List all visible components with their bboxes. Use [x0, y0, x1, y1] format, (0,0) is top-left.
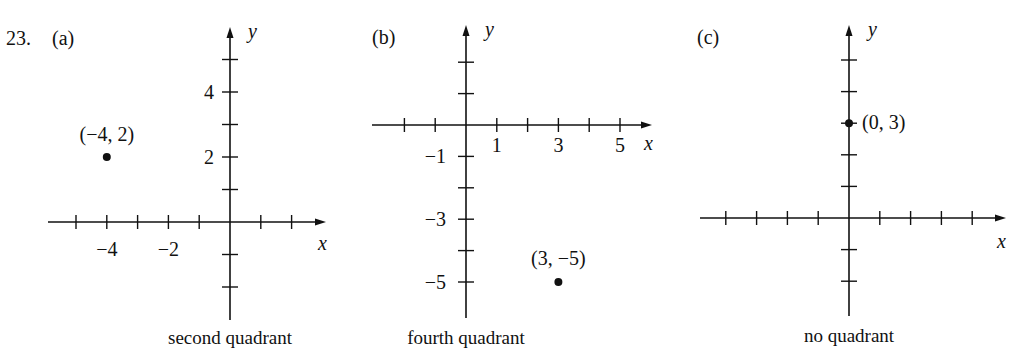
panel-label: (b) [372, 26, 395, 49]
data-point [554, 278, 562, 286]
panel-caption: no quadrant [804, 325, 895, 346]
x-tick-label: −4 [96, 238, 117, 260]
y-axis-arrow-icon [227, 27, 234, 38]
plot-panel-c: (c)xy(0, 3)no quadrant [697, 18, 1006, 346]
x-axis-label: x [643, 132, 653, 154]
panel-caption: second quadrant [168, 327, 293, 348]
y-axis-arrow-icon [463, 25, 470, 36]
x-tick-label: 1 [492, 134, 502, 156]
plot-panel-a: (a)−4−242xy(−4, 2)second quadrant [48, 20, 327, 348]
data-point [103, 153, 111, 161]
y-tick-label: 2 [204, 146, 214, 168]
y-axis-label: y [483, 18, 494, 41]
x-tick-label: 3 [553, 134, 563, 156]
point-label: (0, 3) [862, 111, 905, 134]
x-axis-arrow-icon [315, 219, 326, 226]
y-tick-label: −5 [425, 271, 446, 293]
plot-panel-b: (b)135−1−3−5xy(3, −5)fourth quadrant [372, 18, 653, 348]
y-axis-label: y [866, 18, 877, 41]
point-label: (−4, 2) [79, 123, 134, 146]
plot-panels: (a)−4−242xy(−4, 2)second quadrant(b)135−… [48, 18, 1006, 348]
x-tick-label: 5 [615, 134, 625, 156]
x-axis-label: x [996, 230, 1006, 252]
y-tick-label: −1 [425, 145, 446, 167]
x-tick-label: −2 [158, 238, 179, 260]
data-point [845, 119, 853, 127]
y-axis-label: y [246, 20, 257, 43]
y-tick-label: −3 [425, 208, 446, 230]
x-axis-arrow-icon [995, 215, 1006, 222]
problem-number: 23. [6, 27, 31, 49]
panel-label: (c) [697, 26, 719, 49]
panel-label: (a) [52, 27, 74, 50]
point-label: (3, −5) [531, 247, 586, 270]
y-axis-arrow-icon [846, 25, 853, 36]
coordinate-plot-figure: 23. (a)−4−242xy(−4, 2)second quadrant(b)… [0, 0, 1024, 360]
panel-caption: fourth quadrant [407, 327, 525, 348]
x-axis-arrow-icon [641, 122, 652, 129]
x-axis-label: x [317, 232, 327, 254]
y-tick-label: 4 [204, 81, 214, 103]
